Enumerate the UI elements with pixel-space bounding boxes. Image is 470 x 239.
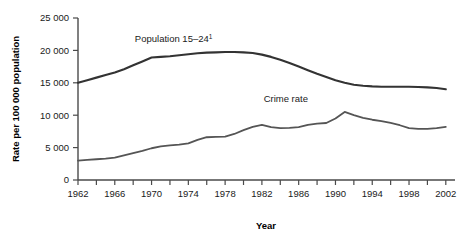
y-axis-group: 05 00010 00015 00020 00025 000 Rate per …: [10, 12, 78, 185]
footnote-marker: 1: [209, 33, 213, 40]
y-axis-ticks: [73, 18, 78, 180]
y-tick-label: 25 000: [40, 12, 69, 23]
x-axis-ticks: [78, 180, 446, 185]
x-tick-label: 1970: [141, 188, 162, 199]
y-tick-label: 20 000: [40, 45, 69, 56]
y-tick-label: 0: [64, 174, 69, 185]
series-line-population: [78, 52, 446, 89]
x-tick-label: 1962: [67, 188, 88, 199]
y-axis-tick-labels: 05 00010 00015 00020 00025 000: [40, 12, 69, 185]
series-label-crime: Crime rate: [264, 93, 308, 104]
x-tick-label: 1966: [104, 188, 125, 199]
line-chart: 05 00010 00015 00020 00025 000 Rate per …: [0, 0, 470, 239]
x-tick-label: 1978: [215, 188, 236, 199]
y-axis-title: Rate per 100 000 population: [10, 36, 21, 162]
series-label-population: Population 15–241: [135, 33, 213, 44]
series-annotations-group: Population 15–241Crime rate: [135, 33, 308, 104]
x-axis-tick-labels: 1962196619701974197819821986199019941998…: [67, 188, 456, 199]
y-tick-label: 15 000: [40, 77, 69, 88]
series-line-crime: [78, 112, 446, 161]
x-tick-label: 1982: [251, 188, 272, 199]
x-tick-label: 1990: [325, 188, 346, 199]
x-tick-label: 1998: [398, 188, 419, 199]
x-tick-label: 1974: [178, 188, 199, 199]
x-tick-label: 1994: [362, 188, 383, 199]
y-tick-label: 10 000: [40, 110, 69, 121]
data-series-group: [78, 52, 446, 161]
x-tick-label: 2002: [435, 188, 456, 199]
x-axis-title: Year: [256, 220, 276, 231]
chart-container: 05 00010 00015 00020 00025 000 Rate per …: [0, 0, 470, 239]
x-tick-label: 1986: [288, 188, 309, 199]
x-axis-group: 1962196619701974197819821986199019941998…: [67, 180, 456, 231]
y-tick-label: 5 000: [45, 142, 69, 153]
